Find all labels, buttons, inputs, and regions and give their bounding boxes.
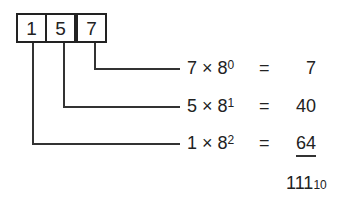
term-row-0: 7 × 80 — [187, 58, 234, 78]
times-sign: × — [202, 58, 213, 78]
total-value: 111 — [286, 173, 313, 193]
total-base-subscript: 10 — [313, 178, 326, 192]
digit-box-hundreds: 1 — [16, 13, 47, 43]
term-exponent: 2 — [228, 133, 235, 147]
digit-7: 7 — [86, 18, 97, 39]
term-base: 8 — [218, 58, 228, 78]
result-row-0: 7 — [276, 58, 316, 78]
term-digit: 7 — [187, 58, 197, 78]
digit-5: 5 — [55, 18, 66, 39]
result-value: 7 — [306, 58, 316, 78]
term-digit: 1 — [187, 133, 197, 153]
result-value: 40 — [296, 96, 316, 116]
result-row-1: 40 — [276, 96, 316, 116]
times-sign: × — [202, 133, 213, 153]
equals-sign: = — [259, 96, 270, 116]
digit-box-tens: 5 — [45, 13, 76, 43]
digit-box-ones: 7 — [76, 13, 107, 43]
digit-1: 1 — [26, 18, 37, 39]
connector-vertical-ones — [94, 43, 96, 70]
times-sign: × — [202, 96, 213, 116]
connector-horizontal-tens — [63, 106, 180, 108]
term-row-1: 5 × 81 — [187, 96, 234, 116]
result-row-2: 64 — [276, 133, 316, 153]
term-row-2: 1 × 82 — [187, 133, 234, 153]
result-value-underlined: 64 — [296, 133, 316, 157]
term-exponent: 0 — [228, 58, 235, 72]
term-base: 8 — [218, 133, 228, 153]
term-exponent: 1 — [228, 96, 235, 110]
term-digit: 5 — [187, 96, 197, 116]
connector-horizontal-hundreds — [32, 143, 180, 145]
equals-sign: = — [259, 58, 270, 78]
equals-sign: = — [259, 133, 270, 153]
sum-total: 11110 — [286, 173, 327, 193]
connector-vertical-tens — [63, 43, 65, 108]
connector-horizontal-ones — [94, 68, 180, 70]
connector-vertical-hundreds — [32, 43, 34, 145]
term-base: 8 — [218, 96, 228, 116]
